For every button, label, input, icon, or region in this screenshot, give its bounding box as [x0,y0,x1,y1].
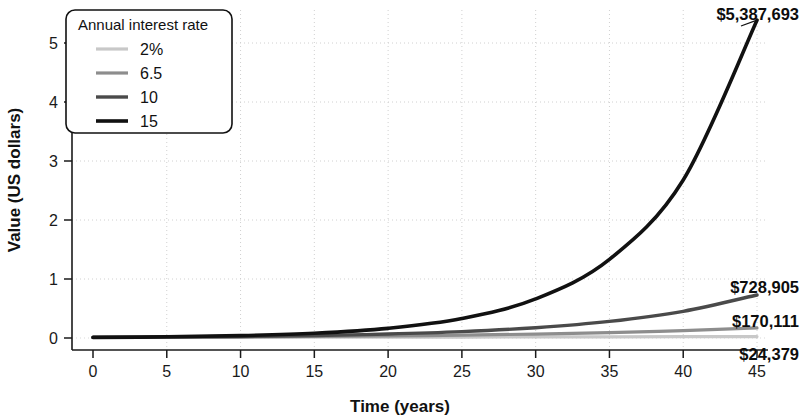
series-value-annotation: $728,905 [730,278,799,296]
series-value-annotation: $5,387,693 [716,5,799,23]
y-tick-label: 4 [49,94,58,111]
legend: Annual interest rate 2%6.51015 [66,10,232,133]
x-tick-label: 30 [527,363,545,380]
y-tick-label: 3 [49,153,58,170]
y-axis-title: Value (US dollars) [5,108,24,253]
y-tick-label: 2 [49,212,58,229]
series-value-annotation: $24,379 [739,345,799,363]
x-tick-label: 35 [601,363,619,380]
y-tick-label: 1 [49,271,58,288]
y-tick-label: 0 [49,330,58,347]
x-tick-label: 25 [453,363,471,380]
x-tick-label: 0 [89,363,98,380]
legend-title: Annual interest rate [78,16,208,33]
x-tick-label: 10 [232,363,250,380]
x-tick-label: 5 [162,363,171,380]
compound-interest-line-chart: 051015202530354045 012345 Time (years) V… [0,0,808,420]
series-value-annotation: $170,111 [732,312,799,330]
x-tick-label: 45 [748,363,766,380]
chart-canvas: 051015202530354045 012345 Time (years) V… [0,0,808,420]
legend-item-label: 10 [140,89,158,106]
x-tick-label: 15 [305,363,323,380]
legend-item-label: 15 [140,113,158,130]
y-tick-label: 5 [49,35,58,52]
legend-item-label: 6.5 [140,65,162,82]
x-tick-label: 20 [379,363,397,380]
x-tick-label: 40 [674,363,692,380]
x-axis-title: Time (years) [350,397,450,416]
legend-item-label: 2% [140,41,163,58]
